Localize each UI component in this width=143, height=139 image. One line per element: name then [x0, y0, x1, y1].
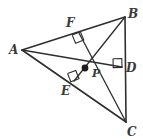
segment-cevian-C-to-F: [79, 33, 126, 122]
point-label-E: E: [61, 85, 70, 97]
geometry-diagram: A B C D E F P: [0, 0, 143, 139]
point-label-P: P: [92, 68, 100, 79]
vertex-label-B: B: [128, 8, 138, 20]
point-label-F: F: [66, 17, 75, 29]
intersection-point-dot: [82, 65, 89, 72]
segment-cevian-A-to-D: [22, 50, 122, 67]
vertex-label-C: C: [127, 126, 137, 138]
vertex-label-A: A: [9, 44, 18, 56]
point-label-D: D: [126, 62, 136, 74]
segment-side-AC: [22, 50, 126, 122]
